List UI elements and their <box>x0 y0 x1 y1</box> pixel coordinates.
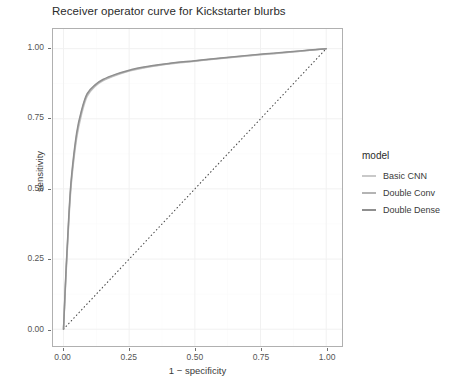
plot-area <box>53 29 342 346</box>
y-axis-label: sensitivity <box>34 127 45 217</box>
y-tick-mark <box>48 259 51 260</box>
x-axis-label: 1 − specificity <box>52 365 343 376</box>
legend: model Basic CNNDouble ConvDouble Dense <box>362 150 458 219</box>
x-tick-mark <box>261 348 262 351</box>
legend-line-icon <box>362 175 376 177</box>
y-tick-mark <box>48 189 51 190</box>
legend-line-icon <box>362 209 376 211</box>
x-tick-mark <box>63 348 64 351</box>
x-tick-mark <box>327 348 328 351</box>
legend-item-label: Double Conv <box>383 188 435 198</box>
roc-chart: Receiver operator curve for Kickstarter … <box>0 0 462 387</box>
plot-panel <box>52 28 343 347</box>
legend-item[interactable]: Double Conv <box>362 185 458 201</box>
y-tick-label: 0.75 <box>10 112 44 122</box>
y-tick-mark <box>48 48 51 49</box>
gridlines <box>53 29 342 346</box>
x-tick-label: 0.75 <box>241 352 281 362</box>
x-tick-mark <box>195 348 196 351</box>
x-tick-label: 0.25 <box>109 352 149 362</box>
y-tick-label: 0.00 <box>10 324 44 334</box>
legend-item[interactable]: Double Dense <box>362 202 458 218</box>
page-title: Receiver operator curve for Kickstarter … <box>52 5 286 17</box>
y-tick-mark <box>48 330 51 331</box>
y-tick-label: 0.25 <box>10 253 44 263</box>
legend-item[interactable]: Basic CNN <box>362 168 458 184</box>
x-tick-label: 0.50 <box>175 352 215 362</box>
legend-line-icon <box>362 192 376 194</box>
x-tick-mark <box>129 348 130 351</box>
legend-title: model <box>362 150 458 161</box>
legend-item-label: Double Dense <box>383 205 440 215</box>
legend-item-label: Basic CNN <box>383 171 427 181</box>
x-tick-label: 1.00 <box>307 352 347 362</box>
y-tick-mark <box>48 118 51 119</box>
y-tick-label: 1.00 <box>10 42 44 52</box>
x-tick-label: 0.00 <box>43 352 83 362</box>
legend-items: Basic CNNDouble ConvDouble Dense <box>362 168 458 218</box>
